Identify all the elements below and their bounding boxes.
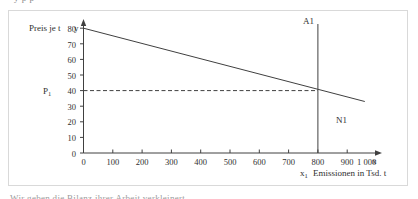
demand-curve-n1-label: N1	[336, 115, 347, 125]
equilibrium-quantity-subscript: 1	[305, 172, 308, 179]
x-axis-arrow-icon	[375, 150, 382, 155]
x-axis-symbol: x	[372, 156, 377, 166]
equilibrium-price-subscript: 1	[48, 90, 51, 97]
y-tick-label: 30	[54, 102, 76, 112]
equilibrium-price-label: P1	[43, 86, 51, 97]
x-axis-caption: x1 Emissionen in Tsd. t	[300, 168, 386, 179]
y-tick-label: 20	[54, 117, 76, 127]
x-tick-marks	[84, 150, 348, 154]
supply-line-a1-label: A1	[303, 16, 314, 26]
y-tick-label: 10	[54, 133, 76, 143]
x-axis-symbol-text: x	[372, 156, 377, 166]
y-tick-label: 50	[54, 71, 76, 81]
y-axis-arrow-icon	[81, 19, 86, 26]
y-tick-label: 40	[54, 86, 76, 96]
y-axis-symbol: y	[74, 23, 79, 33]
y-axis-title: Preis je t	[29, 23, 61, 33]
x-tick-label: 1 000	[357, 157, 397, 167]
y-tick-label: 60	[54, 55, 76, 65]
y-tick-label: 70	[54, 40, 76, 50]
x-axis-caption-text: Emissionen in Tsd. t	[313, 168, 386, 178]
y-tick-marks	[80, 28, 84, 153]
